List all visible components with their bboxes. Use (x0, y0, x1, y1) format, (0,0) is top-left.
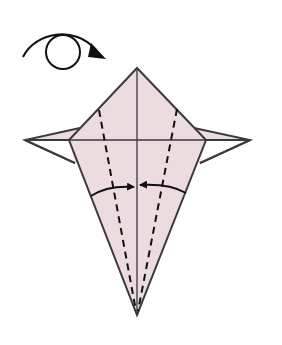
turn-over-icon (23, 34, 106, 69)
kite-body (69, 68, 206, 315)
origami-diagram: turn-over (0, 0, 282, 345)
